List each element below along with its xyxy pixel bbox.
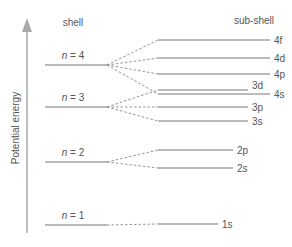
shell-level: n = 3 (45, 92, 107, 107)
subshell-level: 2p (158, 145, 249, 156)
subshell-levels: 4f4d4p3d4s3p3s2p2s1s (158, 35, 286, 230)
subshell-label: 3s (252, 116, 263, 127)
subshell-level: 3d (158, 80, 263, 91)
subshell-level: 4p (158, 69, 286, 80)
subshell-label: 2p (237, 145, 249, 156)
subshell-level: 4f (158, 35, 283, 46)
subshell-label: 3d (252, 80, 263, 91)
shell-label: n = 4 (62, 50, 85, 61)
shell-label: n = 3 (62, 92, 85, 103)
subshell-level: 4d (158, 53, 285, 64)
axis-label: Potential energy (10, 92, 21, 164)
subshell-level: 4s (158, 89, 285, 100)
subshell-label: 4s (274, 89, 285, 100)
subshell-label: 4d (274, 53, 285, 64)
shell-level: n = 1 (45, 210, 107, 225)
subshell-level: 2s (158, 163, 248, 174)
subshell-level: 3s (158, 116, 263, 127)
shell-levels: n = 4n = 3n = 2n = 1 (45, 50, 107, 225)
energy-level-diagram: Potential energy shell sub-shell n = 4n … (0, 0, 292, 247)
shell-label: n = 2 (62, 147, 85, 158)
subshell-label: 2s (237, 163, 248, 174)
energy-axis (22, 18, 32, 233)
subshell-label: 4f (274, 35, 283, 46)
shell-heading: shell (63, 17, 84, 28)
subshell-label: 1s (222, 219, 233, 230)
subshell-label: 3p (252, 102, 264, 113)
shell-level: n = 2 (45, 147, 107, 162)
arrow-up-icon (22, 18, 32, 32)
subshell-level: 1s (158, 219, 233, 230)
shell-level: n = 4 (45, 50, 107, 65)
subshell-level: 3p (158, 102, 264, 113)
subshell-heading: sub-shell (234, 15, 274, 26)
subshell-label: 4p (274, 69, 286, 80)
connector-lines (107, 40, 158, 225)
shell-label: n = 1 (62, 210, 85, 221)
